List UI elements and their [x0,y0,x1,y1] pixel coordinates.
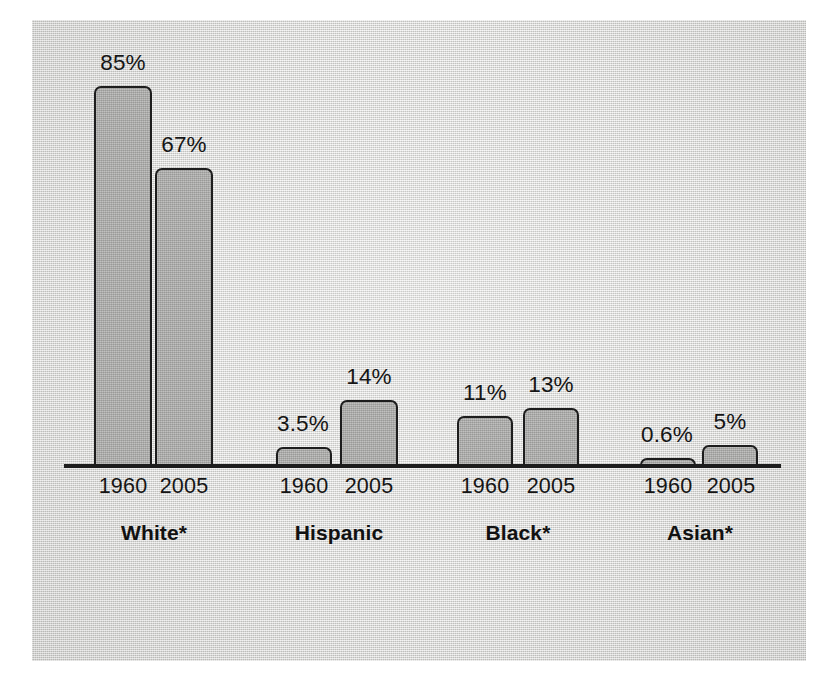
value-label-black-2005: 13% [522,374,580,397]
category-label-black: Black* [448,522,588,543]
value-label-asian-1960: 0.6% [636,424,698,447]
year-label-white-1960: 1960 [94,476,152,498]
chart-figure: 85% 67% 1960 2005 White* 3.5% 14% 1960 2… [0,0,830,692]
bar-asian-2005 [702,445,758,466]
category-label-asian: Asian* [630,522,770,543]
year-label-white-2005: 2005 [155,476,213,498]
bar-black-1960 [457,416,513,466]
value-label-white-1960: 85% [94,52,152,75]
value-label-white-2005: 67% [155,134,213,157]
value-label-black-1960: 11% [456,382,514,405]
bar-white-2005 [155,168,213,466]
value-label-asian-2005: 5% [702,411,758,434]
year-label-black-1960: 1960 [456,476,514,498]
year-label-hispanic-1960: 1960 [275,476,333,498]
bar-white-1960 [94,86,152,466]
year-label-hispanic-2005: 2005 [340,476,398,498]
baseline-axis [64,464,781,468]
year-label-black-2005: 2005 [522,476,580,498]
category-label-hispanic: Hispanic [266,522,412,543]
chart-plot-area: 85% 67% 1960 2005 White* 3.5% 14% 1960 2… [0,0,830,692]
bar-hispanic-2005 [340,400,398,466]
year-label-asian-1960: 1960 [639,476,697,498]
value-label-hispanic-1960: 3.5% [272,413,334,436]
bar-black-2005 [523,408,579,466]
value-label-hispanic-2005: 14% [340,366,398,389]
category-label-white: White* [84,522,224,543]
year-label-asian-2005: 2005 [702,476,760,498]
